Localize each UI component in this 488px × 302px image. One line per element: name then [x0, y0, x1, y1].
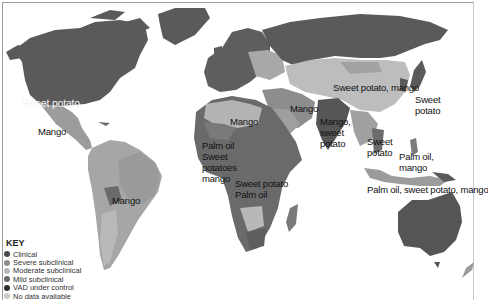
legend-swatch-icon	[4, 293, 10, 299]
legend-item-no-data: No data available	[4, 292, 81, 300]
label-india-mango: Mango,	[320, 117, 351, 127]
label-mexico: Mango	[38, 127, 66, 137]
label-north-africa: Mango	[230, 117, 258, 127]
region-madagascar	[286, 204, 298, 232]
region-tasmania	[434, 262, 440, 268]
label-north-america: Sweet potato	[21, 98, 80, 108]
region-uk	[214, 46, 222, 62]
label-south-america: Mango	[112, 196, 140, 206]
region-russia	[262, 14, 448, 66]
legend-swatch-icon	[4, 268, 10, 274]
legend-swatch-icon	[4, 285, 10, 291]
region-caribbean	[98, 122, 110, 126]
legend-swatch-icon	[4, 260, 10, 266]
label-china: Sweet potato, mango	[333, 83, 419, 93]
label-west-africa-sweet: Sweet	[202, 152, 227, 162]
label-indonesia: Palm oil, sweet potato, mango	[367, 185, 488, 195]
label-japan-sweet: Sweet	[415, 95, 440, 105]
legend-swatch-icon	[4, 276, 10, 282]
legend-swatch-icon	[4, 251, 10, 257]
label-central-africa-palm-oil: Palm oil	[235, 190, 267, 200]
label-philippines-palm-oil: Palm oil,	[399, 152, 434, 162]
label-philippines-mango: mango	[399, 163, 427, 173]
label-west-africa-palm-oil: Palm oil	[202, 141, 234, 151]
label-japan-potato: potato	[415, 106, 440, 116]
label-se-asia-sweet: Sweet	[367, 137, 392, 147]
region-north-america	[14, 20, 148, 106]
label-central-africa-sweet-potato: Sweet potato	[235, 179, 288, 189]
legend-title: KEY	[6, 238, 81, 248]
region-new-zealand	[462, 262, 474, 278]
label-india-sweet: sweet	[320, 128, 344, 138]
label-middle-east: Mango	[290, 104, 318, 114]
region-greenland	[158, 8, 210, 45]
region-australia	[398, 192, 462, 256]
label-se-asia-potato: potato	[367, 148, 392, 158]
label-india-potato: potato	[320, 139, 345, 149]
label-west-africa-mango: mango	[202, 174, 230, 184]
map-legend: KEY Clinical Severe subclinical Moderate…	[4, 238, 81, 300]
label-west-africa-potatoes: potatoes	[202, 163, 237, 173]
